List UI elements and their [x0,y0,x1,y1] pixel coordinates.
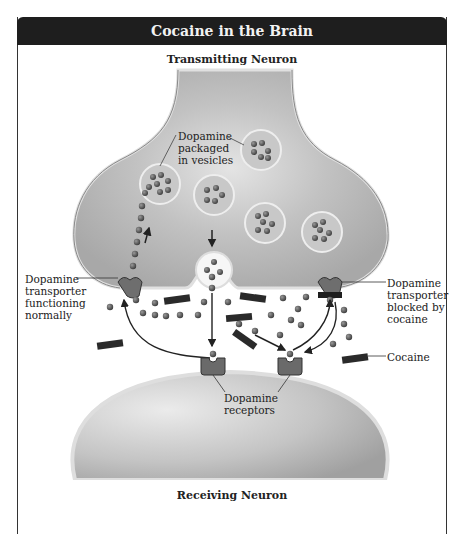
synapse-illustration [0,0,464,534]
cocaine-label: Cocaine [387,351,430,363]
vesicle [302,212,342,252]
transporter-blocked [318,277,342,298]
transmitting-neuron-shape [74,70,388,288]
vesicles-label: Dopamine packaged in vesicles [178,130,233,166]
transporter-normal-label: Dopamine transporter functioning normall… [25,273,86,321]
cocaine-molecules [97,292,369,364]
vesicle [241,130,281,170]
transporter-normal [118,277,142,298]
fusing-vesicle [196,252,232,288]
receiving-neuron-shape [72,372,387,480]
receiving-neuron-label: Receiving Neuron [0,490,464,502]
receptors-label: Dopamine receptors [224,392,278,416]
transmitting-neuron-label: Transmitting Neuron [0,54,464,66]
vesicle [194,175,234,215]
vesicle [140,164,180,204]
transporter-blocked-label: Dopamine transporter blocked by cocaine [387,277,448,325]
vesicle [245,203,285,243]
